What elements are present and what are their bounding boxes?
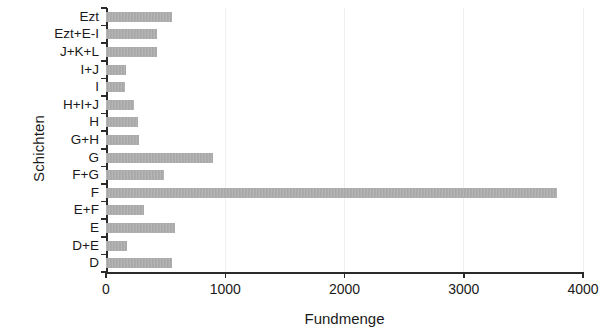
bar-J-K-L xyxy=(106,47,157,57)
bar-I-J xyxy=(106,65,126,75)
gridline-1000 xyxy=(225,8,226,272)
x-tick-label-1000: 1000 xyxy=(195,281,255,297)
y-tick-label-H-I-J: H+I+J xyxy=(0,98,99,112)
y-tick-14 xyxy=(101,254,107,256)
y-tick-10 xyxy=(101,183,107,185)
y-tick-label-G-H: G+H xyxy=(0,133,99,147)
x-tick-2000 xyxy=(344,272,346,278)
y-tick-label-E-F: E+F xyxy=(0,203,99,217)
bar-E-F xyxy=(106,205,144,215)
y-tick-5 xyxy=(101,95,107,97)
bar-Ezt-E-I xyxy=(106,29,157,39)
x-tick-0 xyxy=(105,272,107,278)
bar-F xyxy=(106,188,557,198)
y-tick-label-Ezt: Ezt xyxy=(0,10,99,24)
x-tick-4000 xyxy=(582,272,584,278)
x-axis-title: Fundmenge xyxy=(106,310,583,327)
bar-I xyxy=(106,82,125,92)
y-tick-4 xyxy=(101,78,107,80)
y-tick-1 xyxy=(101,25,107,27)
bar-G-H xyxy=(106,135,139,145)
y-tick-label-F-G: F+G xyxy=(0,168,99,182)
y-tick-label-D: D xyxy=(0,256,99,270)
bar-chart-figure: Schichten Fundmenge 01000200030004000 Ez… xyxy=(0,0,613,336)
y-tick-label-H: H xyxy=(0,115,99,129)
y-tick-0 xyxy=(101,7,107,9)
bar-F-G xyxy=(106,170,164,180)
bar-Ezt xyxy=(106,12,172,22)
y-tick-label-G: G xyxy=(0,151,99,165)
y-tick-11 xyxy=(101,201,107,203)
y-tick-label-I: I xyxy=(0,80,99,94)
gridline-3000 xyxy=(463,8,464,272)
x-tick-label-4000: 4000 xyxy=(553,281,613,297)
y-tick-label-I-J: I+J xyxy=(0,63,99,77)
bar-D-E xyxy=(106,241,127,251)
gridline-2000 xyxy=(344,8,345,272)
bar-D xyxy=(106,258,172,268)
y-tick-13 xyxy=(101,236,107,238)
y-tick-8 xyxy=(101,148,107,150)
y-tick-6 xyxy=(101,113,107,115)
x-tick-label-3000: 3000 xyxy=(434,281,494,297)
bar-H xyxy=(106,117,138,127)
y-tick-label-D-E: D+E xyxy=(0,239,99,253)
y-tick-2 xyxy=(101,42,107,44)
x-tick-label-0: 0 xyxy=(76,281,136,297)
y-tick-3 xyxy=(101,60,107,62)
y-tick-9 xyxy=(101,166,107,168)
bar-G xyxy=(106,153,213,163)
bar-E xyxy=(106,223,175,233)
gridline-4000 xyxy=(583,8,584,272)
y-tick-label-F: F xyxy=(0,186,99,200)
x-tick-label-2000: 2000 xyxy=(315,281,375,297)
bar-H-I-J xyxy=(106,100,134,110)
y-tick-7 xyxy=(101,130,107,132)
y-tick-label-Ezt-E-I: Ezt+E-I xyxy=(0,27,99,41)
y-tick-label-J-K-L: J+K+L xyxy=(0,45,99,59)
y-tick-12 xyxy=(101,218,107,220)
x-tick-3000 xyxy=(463,272,465,278)
x-tick-1000 xyxy=(225,272,227,278)
y-tick-label-E: E xyxy=(0,221,99,235)
